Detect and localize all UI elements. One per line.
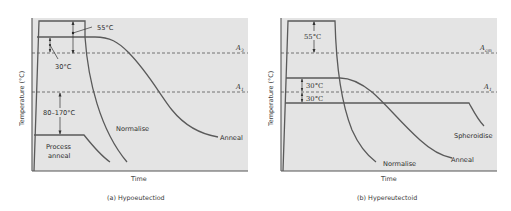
normalise-label-b: Normalise bbox=[383, 160, 416, 168]
gap-label-process: 80–170°C bbox=[43, 109, 76, 117]
y-axis-label-a: Temperature (°C) bbox=[18, 71, 26, 127]
anneal-label-b: Anneal bbox=[451, 156, 474, 164]
caption-a: (a) Hypoeutectiod bbox=[107, 194, 165, 202]
process-label-1: Process bbox=[46, 143, 72, 151]
gap-label-55-b: 55°C bbox=[304, 33, 321, 41]
x-axis-label-a: Time bbox=[130, 175, 147, 183]
gap-label-30-upper: 30°C bbox=[306, 82, 323, 90]
normalise-label-a: Normalise bbox=[116, 125, 149, 133]
x-axis-label-b: Time bbox=[380, 175, 397, 183]
anneal-label-a: Anneal bbox=[220, 134, 243, 142]
caption-b: (b) Hypereutectoid bbox=[357, 194, 417, 202]
gap-label-30-a: 30°C bbox=[55, 63, 72, 71]
gap-label-55-a: 55°C bbox=[97, 24, 114, 32]
panel-hypereutectoid: Acm A1 55°C 30°C 30°C Spheroidise Normal… bbox=[267, 18, 497, 202]
process-label-2: anneal bbox=[48, 152, 70, 160]
panel-hypoeutectoid: A3 A1 55°C 30°C 80–170°C Process anneal … bbox=[18, 18, 248, 202]
y-axis-label-b: Temperature (°C) bbox=[267, 71, 275, 127]
spheroidise-label: Spheroidise bbox=[454, 132, 493, 140]
gap-label-30-lower: 30°C bbox=[306, 95, 323, 103]
